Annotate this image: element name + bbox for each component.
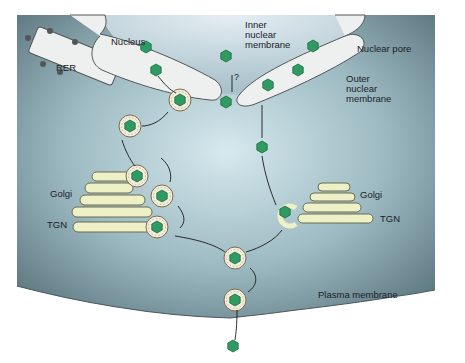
label-outer-nuclear-membrane: Outer nuclear membrane [346,74,391,104]
label-nucleus: Nucleus [111,37,145,47]
label-golgi-right: Golgi [360,190,382,200]
label-plasma-membrane: Plasma membrane [318,290,398,300]
label-question-mark: ? [234,72,239,82]
label-golgi-left: Golgi [50,189,72,199]
label-tgn-left: TGN [47,220,67,230]
label-tgn-right: TGN [380,214,400,224]
label-inner-nuclear-membrane: Inner nuclear membrane [245,20,290,50]
label-rer: RER [56,63,76,73]
label-nuclear-pore: Nuclear pore [357,44,411,54]
diagram-canvas [0,0,465,363]
